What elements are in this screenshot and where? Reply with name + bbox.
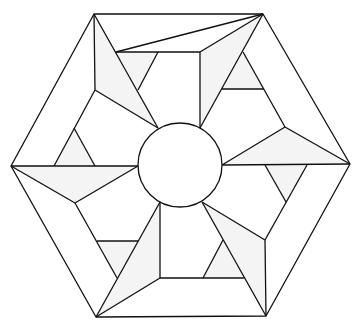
shaded-piece bbox=[54, 128, 95, 166]
shaded-piece bbox=[222, 127, 350, 165]
shaded-piece bbox=[11, 166, 138, 203]
center-circle bbox=[138, 123, 222, 207]
diagram-canvas bbox=[0, 0, 359, 325]
pinwheel-hexagon-diagram bbox=[0, 0, 359, 325]
shaded-piece bbox=[265, 165, 307, 202]
